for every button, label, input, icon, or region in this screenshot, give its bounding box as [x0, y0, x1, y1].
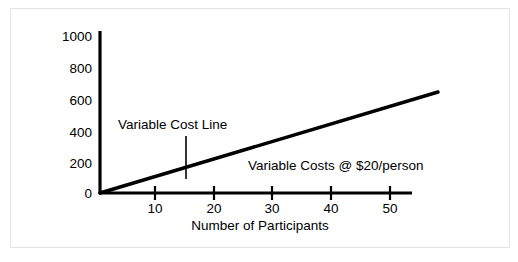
variable-cost-line-annotation: Variable Cost Line — [118, 117, 227, 132]
y-tick-label-200: 200 — [46, 157, 92, 171]
x-tick-label-50: 50 — [370, 202, 410, 216]
variable-cost-chart: 1000 800 600 400 200 0 10 20 30 40 50 Nu… — [0, 0, 518, 262]
x-tick-label-30: 30 — [252, 202, 292, 216]
y-tick-label-0: 0 — [46, 187, 92, 201]
x-tick-label-40: 40 — [311, 202, 351, 216]
x-axis-title: Number of Participants — [160, 218, 360, 233]
variable-cost-rate-annotation: Variable Costs @ $20/person — [248, 158, 424, 173]
x-tick-label-10: 10 — [135, 202, 175, 216]
y-tick-label-600: 600 — [46, 94, 92, 108]
y-tick-label-800: 800 — [46, 62, 92, 76]
y-tick-label-1000: 1000 — [46, 30, 92, 44]
x-tick-label-20: 20 — [194, 202, 234, 216]
y-tick-label-400: 400 — [46, 126, 92, 140]
variable-cost-data-line — [100, 92, 438, 193]
